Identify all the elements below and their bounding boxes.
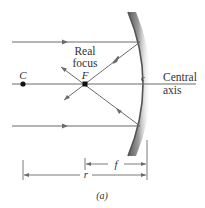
focal-point-label: F (81, 69, 89, 81)
real-focus-label-line2: focus (73, 57, 98, 69)
diagram-svg: Real focus F C c Central axis f r (a) (0, 0, 205, 208)
figure-caption: (a) (96, 190, 108, 202)
incident-ray-bottom (12, 124, 140, 129)
arrow-down-left-icon (113, 57, 119, 64)
central-axis-label-line1: Central (163, 71, 197, 83)
concave-mirror-diagram: Real focus F C c Central axis f r (a) (0, 0, 205, 208)
vertex-label: c (141, 73, 145, 83)
arrow-up-left-icon (116, 108, 122, 114)
focal-point-marker (83, 82, 88, 87)
real-focus-label-line1: Real (74, 45, 95, 57)
central-axis-label-line2: axis (163, 84, 182, 96)
center-of-curvature-label: C (19, 69, 27, 81)
arrow-right-icon (62, 40, 68, 45)
center-of-curvature-marker (20, 81, 25, 86)
reflected-ray-bottom (61, 67, 140, 126)
arrow-right-icon (62, 124, 68, 129)
incident-ray-top (12, 40, 140, 45)
radius-label: r (84, 168, 89, 180)
focal-length-label: f (114, 158, 119, 170)
